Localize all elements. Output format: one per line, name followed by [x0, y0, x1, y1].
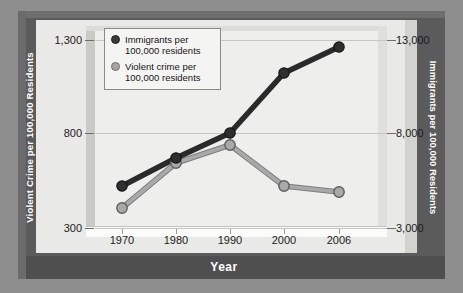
y-axis-right-title: Immigrants per 100,000 Residents: [423, 18, 445, 256]
legend-marker-immigrants-icon: [111, 35, 120, 44]
line-violent-crime-inner: [122, 145, 339, 208]
marker-violent-crime-2000: [279, 181, 289, 191]
y-axis-right-title-text: Immigrants per 100,000 Residents: [429, 60, 440, 214]
legend-label-violent-crime-line1: Violent crime per: [125, 61, 201, 72]
x-axis-title: Year: [26, 256, 422, 278]
marker-immigrants-1970: [117, 181, 127, 191]
marker-immigrants-2000: [279, 68, 289, 78]
legend-label-immigrants: Immigrants per 100,000 residents: [125, 34, 201, 56]
y-axis-left-title: Violent Crime per 100,000 Residents: [18, 18, 40, 256]
marker-immigrants-1980: [171, 153, 181, 163]
marker-violent-crime-2006: [334, 187, 344, 197]
marker-violent-crime-1970: [117, 203, 127, 213]
marker-immigrants-2006: [334, 42, 344, 52]
chart-screenshot: 1,300 800 300 13,000 8,000 3,000 1970 19…: [0, 0, 463, 293]
legend-label-violent-crime-line2: 100,000 residents: [125, 72, 201, 83]
legend-label-immigrants-line1: Immigrants per: [125, 34, 201, 45]
marker-immigrants-1990: [225, 128, 235, 138]
legend-marker-violent-crime-icon: [111, 62, 120, 71]
marker-violent-crime-1990: [225, 140, 235, 150]
chart-legend: Immigrants per 100,000 residents Violent…: [104, 28, 221, 90]
legend-label-violent-crime: Violent crime per 100,000 residents: [125, 61, 201, 83]
series-layer: [0, 0, 463, 293]
legend-label-immigrants-line2: 100,000 residents: [125, 45, 201, 56]
legend-item-violent-crime: Violent crime per 100,000 residents: [111, 61, 214, 83]
legend-item-immigrants: Immigrants per 100,000 residents: [111, 34, 214, 56]
y-axis-left-title-text: Violent Crime per 100,000 Residents: [24, 52, 35, 223]
line-violent-crime: [122, 145, 339, 208]
